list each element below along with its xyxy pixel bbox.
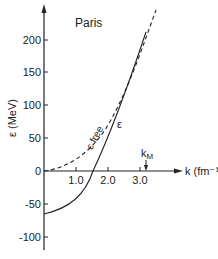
series-label-eps-free: ε free	[84, 124, 105, 151]
y-tick-0: 0	[35, 165, 41, 177]
y-tick-50: 50	[29, 132, 41, 144]
y-tick-minus100: -100	[19, 231, 41, 243]
x-tick-1: 1.0	[68, 174, 83, 186]
km-label: kM	[141, 147, 154, 161]
y-axis-label: ε (MeV)	[6, 99, 18, 137]
x-axis-label: k (fm⁻¹)	[185, 165, 218, 177]
x-tick-2: 2.0	[100, 174, 115, 186]
series-eps	[44, 32, 146, 214]
chart: 200 150 100 50 0 -50 -100 1.0 2.0 3.0 k …	[0, 0, 218, 259]
series-label-eps: ε	[117, 118, 122, 130]
y-axis-arrow-icon	[42, 4, 47, 13]
km-arrow-icon	[144, 165, 148, 171]
x-tick-3: 3.0	[132, 174, 147, 186]
y-tick-minus50: -50	[25, 198, 41, 210]
y-tick-150: 150	[23, 66, 41, 78]
y-tick-200: 200	[23, 34, 41, 46]
y-tick-100: 100	[23, 99, 41, 111]
series-eps-free	[44, 10, 156, 171]
x-axis-arrow-icon	[174, 169, 183, 174]
chart-title: Paris	[75, 16, 102, 30]
